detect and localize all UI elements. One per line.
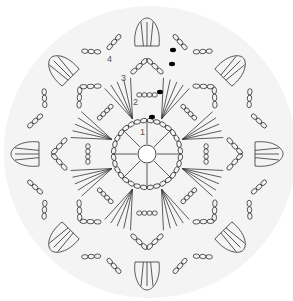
round-label-2: 2: [133, 97, 138, 107]
center-ring: [138, 145, 156, 163]
start-marker-round-3: [169, 62, 175, 66]
start-marker-round-4: [170, 48, 176, 52]
start-marker-round-1: [149, 115, 155, 119]
crochet-diagram: 1 2 3 4: [0, 0, 293, 301]
crochet-chart-svg: [0, 0, 293, 301]
round-label-3: 3: [121, 73, 126, 83]
round-label-4: 4: [107, 54, 112, 64]
start-marker-round-2: [157, 90, 163, 94]
round-label-1: 1: [140, 127, 145, 137]
